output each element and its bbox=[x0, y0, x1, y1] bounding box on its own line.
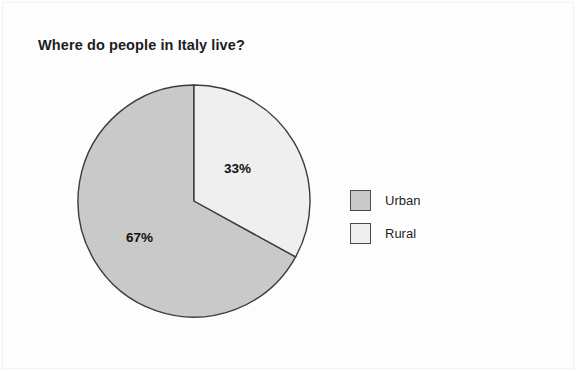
pie-chart-svg bbox=[78, 85, 310, 317]
legend-swatch-rural bbox=[350, 223, 371, 244]
pie-label-rural: 33% bbox=[224, 161, 251, 176]
chart-legend: Urban Rural bbox=[350, 189, 420, 255]
legend-item-urban[interactable]: Urban bbox=[350, 189, 420, 211]
legend-label-rural: Rural bbox=[385, 227, 416, 240]
pie-label-urban: 67% bbox=[126, 230, 153, 245]
page-title: Where do people in Italy live? bbox=[38, 37, 245, 53]
legend-label-urban: Urban bbox=[385, 194, 420, 207]
legend-item-rural[interactable]: Rural bbox=[350, 222, 420, 244]
legend-swatch-urban bbox=[350, 190, 371, 211]
chart-page: Where do people in Italy live? 33% 67% U… bbox=[0, 0, 576, 371]
pie-chart: 33% 67% bbox=[78, 85, 310, 317]
